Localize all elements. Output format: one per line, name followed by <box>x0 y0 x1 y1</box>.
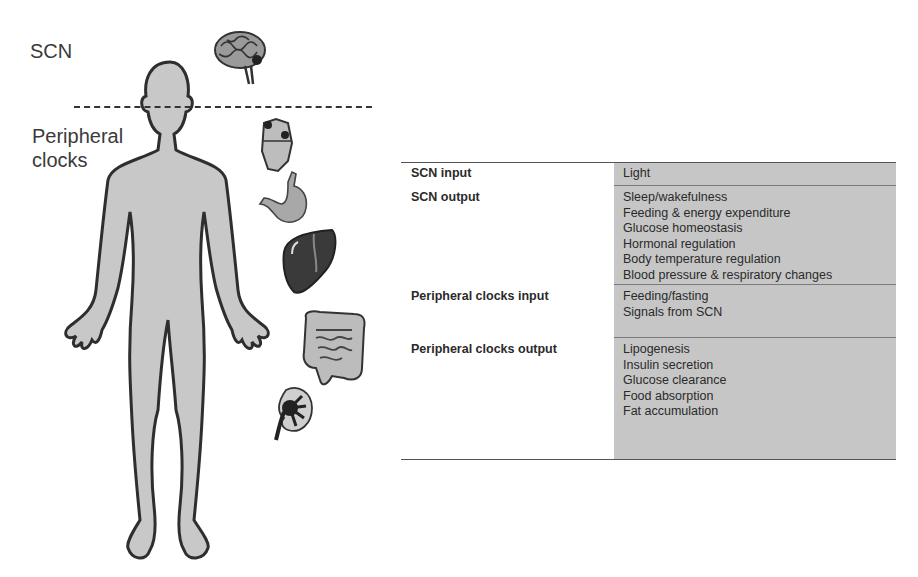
heart-icon <box>262 119 292 171</box>
row-value: Lipogenesis <box>623 342 727 358</box>
table-top-rule <box>401 162 896 163</box>
liver-icon <box>283 230 335 293</box>
row-value: Body temperature regulation <box>623 252 832 268</box>
row-value: Glucose homeostasis <box>623 221 832 237</box>
scn-peripheral-divider <box>74 106 372 108</box>
row-key: Peripheral clocks output <box>411 342 557 356</box>
row-value: Feeding & energy expenditure <box>623 206 832 222</box>
row-value: Light <box>623 166 650 182</box>
row-value: Feeding/fasting <box>623 289 722 305</box>
row-value: Signals from SCN <box>623 305 722 321</box>
peripheral-clocks-label: Peripheral clocks <box>32 124 123 172</box>
row-value: Blood pressure & respiratory changes <box>623 268 832 284</box>
row-values: Light <box>623 166 650 182</box>
peripheral-label-line1: Peripheral <box>32 124 123 148</box>
row-key: SCN input <box>411 166 471 180</box>
row-values: Feeding/fasting Signals from SCN <box>623 289 722 320</box>
row-value: Fat accumulation <box>623 404 727 420</box>
row-value: Glucose clearance <box>623 373 727 389</box>
row-value: Food absorption <box>623 389 727 405</box>
table-bottom-rule <box>401 459 896 460</box>
intestine-icon <box>304 311 365 384</box>
row-separator <box>614 284 896 285</box>
row-values: Sleep/wakefulness Feeding & energy expen… <box>623 190 832 284</box>
row-separator <box>614 185 896 186</box>
row-value: Sleep/wakefulness <box>623 190 832 206</box>
stomach-icon <box>260 172 306 222</box>
row-value: Hormonal regulation <box>623 237 832 253</box>
row-value: Insulin secretion <box>623 358 727 374</box>
row-key: SCN output <box>411 190 480 204</box>
peripheral-label-line2: clocks <box>32 148 123 172</box>
kidney-icon <box>276 388 312 440</box>
body-organs-illustration <box>0 0 420 577</box>
row-key: Peripheral clocks input <box>411 289 549 303</box>
scn-label: SCN <box>30 40 72 63</box>
brain-icon <box>215 32 265 84</box>
row-separator <box>614 337 896 338</box>
row-values: Lipogenesis Insulin secretion Glucose cl… <box>623 342 727 420</box>
